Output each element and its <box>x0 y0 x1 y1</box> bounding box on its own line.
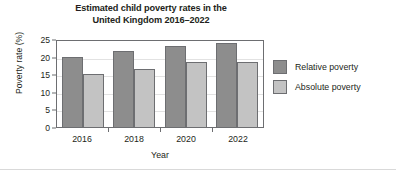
bottom-divider <box>0 169 396 170</box>
legend-label: Absolute poverty <box>295 82 361 92</box>
y-tick-label-20: 20 <box>40 53 50 63</box>
y-tick-label-5: 5 <box>45 105 50 115</box>
bar-group-2016 <box>62 41 104 127</box>
y-axis-ticks: 0510152025 <box>28 40 56 128</box>
x-tick-label-2018: 2018 <box>124 134 144 144</box>
x-tick-mark-2 <box>160 128 161 132</box>
y-axis-title: Poverty rate (%) <box>14 18 24 108</box>
bar-group-2018 <box>113 41 155 127</box>
legend-swatch-icon <box>273 60 287 74</box>
x-tick-label-2016: 2016 <box>72 134 92 144</box>
bar-group-2022 <box>216 41 258 127</box>
bar-2016-absolute <box>83 74 104 127</box>
bar-2020-relative <box>165 46 186 127</box>
chart-title-line-2: United Kingdom 2016–2022 <box>36 15 266 27</box>
bar-2020-absolute <box>186 62 207 127</box>
y-tick-label-0: 0 <box>45 123 50 133</box>
x-tick-label-2022: 2022 <box>228 134 248 144</box>
bar-2018-relative <box>113 51 134 127</box>
bar-group-2020 <box>165 41 207 127</box>
chart-title-line-1: Estimated child poverty rates in the <box>36 3 266 15</box>
bar-2018-absolute <box>134 69 155 127</box>
x-axis-title: Year <box>56 150 264 160</box>
y-tick-label-10: 10 <box>40 88 50 98</box>
legend-item-absolute: Absolute poverty <box>273 77 361 97</box>
y-tick-label-15: 15 <box>40 70 50 80</box>
legend-label: Relative poverty <box>295 62 358 72</box>
bar-2022-absolute <box>237 62 258 127</box>
x-tick-mark-3 <box>212 128 213 132</box>
bar-2022-relative <box>216 43 237 127</box>
chart-figure: Estimated child poverty rates in the Uni… <box>0 0 396 175</box>
x-tick-mark-1 <box>108 128 109 132</box>
y-tick-label-25: 25 <box>40 35 50 45</box>
x-axis-ticks: 2016201820202022 <box>56 128 264 150</box>
plot-area <box>56 40 264 128</box>
legend-swatch-icon <box>273 80 287 94</box>
bars-layer <box>57 41 263 127</box>
chart-legend: Relative povertyAbsolute poverty <box>273 57 361 97</box>
x-tick-label-2020: 2020 <box>176 134 196 144</box>
legend-item-relative: Relative poverty <box>273 57 361 77</box>
bar-2016-relative <box>62 57 83 127</box>
chart-title: Estimated child poverty rates in the Uni… <box>36 3 266 26</box>
